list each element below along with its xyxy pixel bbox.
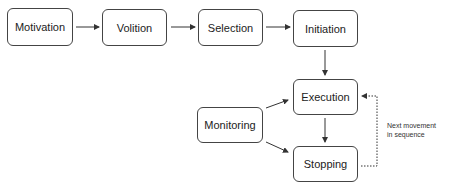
- node-label: Initiation: [305, 23, 346, 35]
- annotation-line-2: in sequence: [387, 130, 436, 139]
- node-monitoring: Monitoring: [197, 107, 263, 143]
- node-label: Selection: [208, 22, 253, 34]
- node-label: Stopping: [304, 158, 347, 170]
- node-execution: Execution: [293, 79, 358, 115]
- annotation-line-1: Next movement: [387, 121, 436, 130]
- node-selection: Selection: [198, 9, 263, 46]
- node-label: Monitoring: [204, 119, 255, 131]
- loop-annotation: Next movement in sequence: [387, 121, 436, 139]
- node-stopping: Stopping: [293, 146, 358, 182]
- node-initiation: Initiation: [293, 10, 358, 47]
- node-motivation: Motivation: [7, 8, 73, 46]
- node-label: Motivation: [15, 21, 65, 33]
- arrow-monitoring-stopping: [266, 142, 288, 152]
- dotted-loop-stopping-execution: [361, 96, 377, 166]
- node-volition: Volition: [102, 9, 167, 46]
- node-label: Volition: [117, 22, 152, 34]
- node-label: Execution: [301, 91, 349, 103]
- arrow-monitoring-execution: [266, 100, 288, 108]
